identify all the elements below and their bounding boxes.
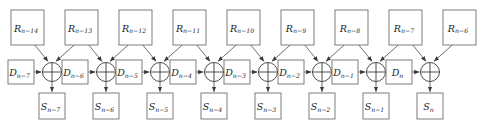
edge-register-2-to-xor-2 xyxy=(89,45,102,61)
edge-register-4-to-xor-4 xyxy=(197,45,210,61)
edge-register-6-to-xor-6 xyxy=(305,45,318,61)
edge-register-4-to-xor-3 xyxy=(164,45,182,61)
signal-flow-diagram: Dn−7Dn−6Dn−5Dn−4Dn−3Dn−2Dn−1DnRn−14Rn−13… xyxy=(0,0,488,125)
edge-register-8-to-xor-8 xyxy=(413,45,426,61)
edge-register-5-to-xor-4 xyxy=(218,45,236,61)
edge-register-9-to-xor-8 xyxy=(434,45,452,61)
edge-register-8-to-xor-7 xyxy=(380,45,398,61)
edge-register-3-to-xor-3 xyxy=(143,45,156,61)
edge-register-5-to-xor-5 xyxy=(251,45,264,61)
edge-register-7-to-xor-7 xyxy=(359,45,372,61)
edge-register-1-to-xor-1 xyxy=(35,45,48,61)
edge-register-6-to-xor-5 xyxy=(272,45,290,61)
edge-register-3-to-xor-2 xyxy=(110,45,128,61)
nodes-layer: Dn−7Dn−6Dn−5Dn−4Dn−3Dn−2Dn−1DnRn−14Rn−13… xyxy=(8,10,476,119)
diagram-canvas: Dn−7Dn−6Dn−5Dn−4Dn−3Dn−2Dn−1DnRn−14Rn−13… xyxy=(0,0,488,125)
edge-register-2-to-xor-1 xyxy=(56,45,74,61)
edge-register-7-to-xor-6 xyxy=(326,45,344,61)
